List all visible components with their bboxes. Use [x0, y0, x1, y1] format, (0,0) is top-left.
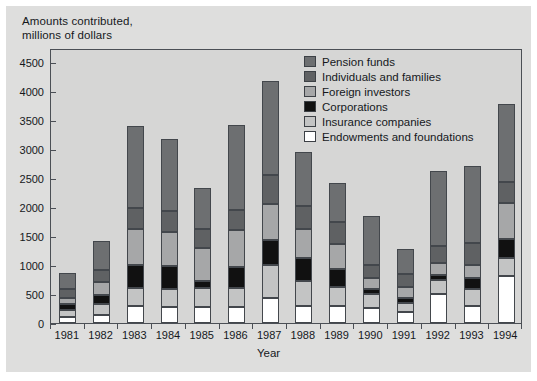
- bar-segment: [329, 306, 346, 323]
- bar-segment: [363, 289, 380, 294]
- y-tick-label: 4000: [10, 86, 44, 98]
- bar-segment: [228, 230, 245, 267]
- bar-segment: [161, 232, 178, 267]
- x-tick-mark: [117, 324, 118, 329]
- bar-segment: [194, 281, 211, 288]
- bar-segment: [228, 267, 245, 288]
- bar-segment: [228, 288, 245, 307]
- y-axis-title: Amounts contributed, millions of dollars: [22, 14, 133, 42]
- x-tick-mark: [286, 324, 287, 329]
- chart-legend: Pension fundsIndividuals and familiesFor…: [301, 51, 478, 147]
- bar-segment: [295, 306, 312, 323]
- chart-figure: Amounts contributed, millions of dollars…: [0, 0, 537, 381]
- bar-group[interactable]: [498, 104, 515, 323]
- bar-group[interactable]: [430, 171, 447, 323]
- y-tick-label: 2000: [10, 202, 44, 214]
- legend-swatch-icon: [304, 131, 316, 142]
- bar-segment: [397, 303, 414, 312]
- y-tick-mark: [51, 92, 56, 93]
- bar-segment: [498, 276, 515, 323]
- bar-group[interactable]: [397, 249, 414, 323]
- legend-swatch-icon: [304, 116, 316, 127]
- y-tick-mark: [51, 63, 56, 64]
- bar-segment: [430, 275, 447, 280]
- bar-group[interactable]: [295, 152, 312, 323]
- x-tick-mark: [84, 324, 85, 329]
- bar-group[interactable]: [127, 126, 144, 323]
- y-tick-label: 3500: [10, 115, 44, 127]
- bar-group[interactable]: [93, 241, 110, 323]
- x-tick-mark: [185, 324, 186, 329]
- bar-segment: [93, 282, 110, 294]
- legend-item[interactable]: Individuals and families: [304, 69, 474, 84]
- bar-segment: [262, 240, 279, 265]
- bar-segment: [127, 306, 144, 323]
- bar-segment: [430, 171, 447, 246]
- bar-group[interactable]: [262, 81, 279, 323]
- legend-label: Pension funds: [322, 56, 395, 68]
- bar-segment: [228, 125, 245, 210]
- bar-segment: [430, 246, 447, 263]
- bar-group[interactable]: [363, 216, 380, 323]
- bar-segment: [397, 287, 414, 298]
- bar-segment: [59, 298, 76, 304]
- x-tick-mark: [455, 324, 456, 329]
- bar-segment: [194, 307, 211, 323]
- bar-segment: [329, 222, 346, 244]
- bar-segment: [363, 265, 380, 278]
- legend-item[interactable]: Insurance companies: [304, 114, 474, 129]
- bar-group[interactable]: [194, 188, 211, 323]
- bar-segment: [498, 239, 515, 258]
- y-tick-label: 4500: [10, 57, 44, 69]
- bar-segment: [59, 310, 76, 317]
- bar-group[interactable]: [59, 273, 76, 323]
- bar-segment: [295, 258, 312, 281]
- bar-group[interactable]: [464, 166, 481, 323]
- bar-segment: [464, 166, 481, 244]
- bar-segment: [329, 269, 346, 286]
- x-tick-mark: [353, 324, 354, 329]
- bar-segment: [262, 265, 279, 297]
- bar-segment: [397, 274, 414, 287]
- bar-segment: [194, 229, 211, 248]
- bar-segment: [295, 152, 312, 206]
- legend-item[interactable]: Pension funds: [304, 54, 474, 69]
- legend-item[interactable]: Endowments and foundations: [304, 129, 474, 144]
- bar-segment: [329, 244, 346, 269]
- legend-swatch-icon: [304, 71, 316, 82]
- legend-swatch-icon: [304, 86, 316, 97]
- bar-segment: [127, 208, 144, 229]
- bar-segment: [59, 273, 76, 289]
- bar-segment: [161, 139, 178, 211]
- x-tick-mark: [521, 324, 522, 329]
- y-tick-mark: [51, 237, 56, 238]
- bar-segment: [363, 216, 380, 264]
- bar-segment: [430, 280, 447, 294]
- legend-item[interactable]: Foreign investors: [304, 84, 474, 99]
- bar-segment: [93, 304, 110, 316]
- legend-item[interactable]: Corporations: [304, 99, 474, 114]
- bar-segment: [228, 307, 245, 323]
- x-axis-title: Year: [0, 347, 537, 359]
- x-tick-mark: [252, 324, 253, 329]
- bar-group[interactable]: [228, 125, 245, 323]
- bar-segment: [363, 278, 380, 290]
- bar-segment: [262, 204, 279, 240]
- bar-group[interactable]: [329, 183, 346, 323]
- bar-segment: [498, 104, 515, 182]
- bar-segment: [127, 126, 144, 209]
- legend-label: Endowments and foundations: [322, 131, 474, 143]
- bar-segment: [59, 304, 76, 310]
- legend-label: Foreign investors: [322, 86, 410, 98]
- bar-segment: [397, 249, 414, 274]
- bar-segment: [329, 287, 346, 306]
- bar-segment: [464, 289, 481, 305]
- legend-swatch-icon: [304, 101, 316, 112]
- bar-segment: [161, 307, 178, 323]
- y-tick-mark: [51, 179, 56, 180]
- x-tick-mark: [151, 324, 152, 329]
- bar-segment: [93, 270, 110, 283]
- legend-label: Insurance companies: [322, 116, 431, 128]
- x-tick-mark: [421, 324, 422, 329]
- bar-group[interactable]: [161, 139, 178, 323]
